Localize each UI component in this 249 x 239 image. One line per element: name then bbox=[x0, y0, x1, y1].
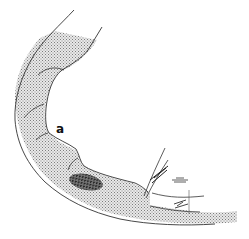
anatomical-figure: a bbox=[0, 0, 249, 239]
hatch-mark bbox=[172, 178, 188, 182]
stippled-band bbox=[15, 31, 237, 224]
hatch-mark bbox=[174, 200, 188, 208]
channel-line bbox=[152, 193, 204, 197]
label-a: a bbox=[56, 122, 64, 136]
